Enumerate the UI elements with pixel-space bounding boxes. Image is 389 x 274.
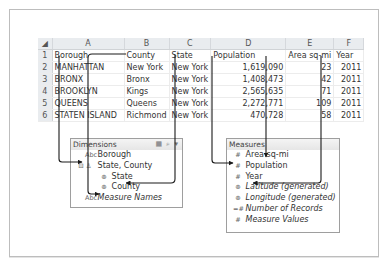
measure-item-latitude[interactable]: ⊕ Latitude (generated) [227,182,339,193]
dimension-label: State [112,172,133,181]
header-cell-area[interactable]: Area sq-mi [286,49,334,61]
measure-label: Number of Records [246,204,323,213]
measure-item-number-of-records[interactable]: =# Number of Records [227,204,339,215]
header-cell-state[interactable]: State [169,49,211,61]
globe-icon: ⊕ [233,193,243,204]
column-header-d[interactable]: D [211,38,286,49]
cell-state[interactable]: New York [169,61,211,73]
number-type-icon: # [233,150,243,161]
cell-year[interactable]: 2011 [334,85,364,97]
header-cell-population[interactable]: Population [211,49,286,61]
column-header-c[interactable]: C [169,38,211,49]
measure-label: Year [246,172,263,181]
cell-year[interactable]: 2011 [334,61,364,73]
dimension-label: County [112,182,141,191]
measure-label: Population [246,161,288,170]
column-header-e[interactable]: E [286,38,334,49]
cell-population[interactable]: 470,728 [211,109,286,121]
cell-year[interactable]: 2011 [334,109,364,121]
row-number[interactable]: 6 [38,109,52,121]
table-row: 4 BROOKLYN Kings New York 2,565,635 71 2… [38,85,364,97]
cell-state[interactable]: New York [169,85,211,97]
measures-header: Measures [227,139,339,150]
measure-label: Measure Values [246,215,309,224]
measure-item-longitude[interactable]: ⊕ Longitude (generated) [227,193,339,204]
hierarchy-collapse-icon[interactable]: ⊟ ♙ [75,161,95,172]
cell-borough[interactable]: QUEENS [52,97,124,109]
row-number[interactable]: 1 [38,49,52,61]
table-row: 6 STATEN ISLAND Richmond New York 470,72… [38,109,364,121]
cell-year[interactable]: 2011 [334,73,364,85]
dimension-label: State, County [98,161,153,170]
cell-area[interactable]: 58 [286,109,334,121]
header-cell-year[interactable]: Year [334,49,364,61]
measure-item-year[interactable]: # Year [227,172,339,183]
row-number[interactable]: 5 [38,97,52,109]
cell-state[interactable]: New York [169,97,211,109]
column-header-a[interactable]: A [52,38,124,49]
globe-icon: ⊕ [99,172,109,183]
cell-state[interactable]: New York [169,73,211,85]
cell-state[interactable]: New York [169,109,211,121]
cell-population[interactable]: 1,408,473 [211,73,286,85]
cell-county[interactable]: New York [124,61,169,73]
measure-item-population[interactable]: # Population [227,161,339,172]
column-header-f[interactable]: F [334,38,364,49]
cell-area[interactable]: 71 [286,85,334,97]
calculated-number-icon: =# [233,204,243,215]
dimension-item-county[interactable]: ⊕ County [71,182,182,193]
table-row: 3 BRONX Bronx New York 1,408,473 42 2011 [38,73,364,85]
globe-icon: ⊕ [99,182,109,193]
cell-population[interactable]: 2,565,635 [211,85,286,97]
cell-county[interactable]: Kings [124,85,169,97]
row-number[interactable]: 4 [38,85,52,97]
select-all-corner[interactable]: ◢ [38,38,52,49]
cell-county[interactable]: Queens [124,97,169,109]
cell-area[interactable]: 109 [286,97,334,109]
dimension-label: Borough [98,150,132,159]
dimension-item-hierarchy[interactable]: ⊟ ♙ State, County [71,161,182,172]
dimensions-header: Dimensions ▦ ⌕ ▾ [71,139,182,150]
cell-borough[interactable]: STATEN ISLAND [52,109,124,121]
table-row: 2 MANHATTAN New York New York 1,619,090 … [38,61,364,73]
number-type-icon: # [233,172,243,183]
row-number[interactable]: 2 [38,61,52,73]
number-type-icon: # [233,215,243,226]
measures-panel: Measures # Area sq-mi # Population # Yea… [226,138,340,233]
dimensions-panel: Dimensions ▦ ⌕ ▾ Abc Borough ⊟ ♙ State, … [70,138,183,208]
string-type-icon: Abc [85,193,95,204]
table-row: 5 QUEENS Queens New York 2,272,771 109 2… [38,97,364,109]
number-type-icon: # [233,161,243,172]
cell-borough[interactable]: MANHATTAN [52,61,124,73]
dimension-item-borough[interactable]: Abc Borough [71,150,182,161]
cell-population[interactable]: 2,272,771 [211,97,286,109]
globe-icon: ⊕ [233,182,243,193]
dimension-label: Measure Names [98,193,163,202]
column-header-b[interactable]: B [124,38,169,49]
cell-area[interactable]: 23 [286,61,334,73]
dimension-item-measure-names[interactable]: Abc Measure Names [71,193,182,204]
header-cell-county[interactable]: County [124,49,169,61]
cell-borough[interactable]: BROOKLYN [52,85,124,97]
cell-year[interactable]: 2011 [334,97,364,109]
dimension-item-state[interactable]: ⊕ State [71,172,182,183]
cell-county[interactable]: Bronx [124,73,169,85]
cell-county[interactable]: Richmond [124,109,169,121]
table-header-row: 1 Borough County State Population Area s… [38,49,364,61]
measure-label: Area sq-mi [246,150,289,159]
measure-label: Latitude (generated) [246,182,329,191]
measure-item-area[interactable]: # Area sq-mi [227,150,339,161]
string-type-icon: Abc [85,150,95,161]
panel-toolbar-icons[interactable]: ▦ ⌕ ▾ [155,139,179,150]
cell-borough[interactable]: BRONX [52,73,124,85]
header-cell-borough[interactable]: Borough [52,49,124,61]
cell-area[interactable]: 42 [286,73,334,85]
measure-label: Longitude (generated) [246,193,336,202]
measure-item-measure-values[interactable]: # Measure Values [227,215,339,226]
cell-population[interactable]: 1,619,090 [211,61,286,73]
spreadsheet: ◢ A B C D E F 1 Borough County State Pop… [38,38,364,122]
row-number[interactable]: 3 [38,73,52,85]
column-letter-row: ◢ A B C D E F [38,38,364,49]
dimensions-title: Dimensions [73,140,117,149]
measures-title: Measures [229,140,265,149]
